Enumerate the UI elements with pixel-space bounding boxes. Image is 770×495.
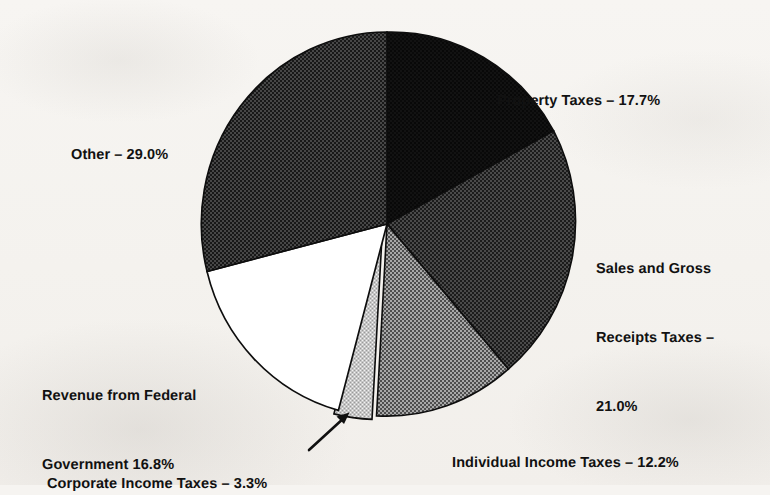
slice-label-federal-line-1: Revenue from Federal — [42, 385, 196, 408]
slice-label-property-taxes: Property Taxes – 17.7% — [497, 44, 660, 159]
slice-label-federal-line-2: Government 16.8% — [42, 454, 196, 477]
slice-label-sales-line-1: Sales and Gross — [596, 258, 714, 281]
corporate-leader-arrow — [309, 413, 350, 451]
slice-label-property-text: Property Taxes – 17.7% — [497, 90, 660, 113]
slice-label-individual-income-taxes: Individual Income Taxes – 12.2% — [452, 406, 679, 495]
slice-label-revenue-from-federal-government: Revenue from Federal Government 16.8% — [42, 339, 196, 495]
leader-line — [309, 417, 345, 450]
slice-label-sales-line-2: Receipts Taxes – — [596, 327, 714, 350]
slice-label-other-text: Other – 29.0% — [71, 144, 168, 167]
slice-label-other: Other – 29.0% — [71, 98, 168, 213]
slice-label-individual-text: Individual Income Taxes – 12.2% — [452, 452, 679, 475]
